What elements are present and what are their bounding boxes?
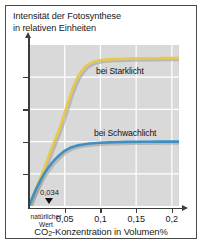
- y-axis-tick-3: [23, 77, 29, 78]
- y-axis-line: [28, 37, 30, 209]
- x-axis-tick-label-3: 0,2: [166, 214, 179, 224]
- x-axis-tick-2: [136, 208, 137, 213]
- figure-frame: Intensität der Fotosynthese in relativen…: [5, 5, 197, 239]
- annotation-natural-line-1: natürlicher: [8, 213, 84, 221]
- annotation-pointer-icon: [45, 198, 53, 204]
- x-axis-tick-1: [100, 208, 101, 213]
- y-axis-tick-0: [23, 174, 29, 175]
- chart-title: Intensität der Fotosynthese in relativen…: [13, 11, 191, 34]
- chart-title-line-2: in relativen Einheiten: [13, 23, 191, 35]
- x-axis-label-prefix: CO: [34, 226, 48, 237]
- series-label-strong-light: bei Starklicht: [96, 66, 144, 76]
- x-axis-label: CO2-Konzentration in Volumen%: [6, 226, 196, 237]
- y-axis-tick-2: [23, 109, 29, 110]
- y-axis-tick-1: [23, 142, 29, 143]
- x-axis-line: [28, 208, 183, 210]
- x-axis-tick-3: [172, 208, 173, 213]
- series-label-weak-light: bei Schwachlicht: [94, 128, 156, 138]
- x-axis-tick-label-1: 0,1: [94, 214, 107, 224]
- x-axis-arrow-icon: [182, 205, 188, 211]
- x-axis-tick-label-2: 0,15: [127, 214, 145, 224]
- chart-title-line-1: Intensität der Fotosynthese: [13, 11, 191, 23]
- annotation-value-label: 0,034: [40, 188, 59, 197]
- x-axis-label-suffix: -Konzentration in Volumen%: [52, 226, 168, 237]
